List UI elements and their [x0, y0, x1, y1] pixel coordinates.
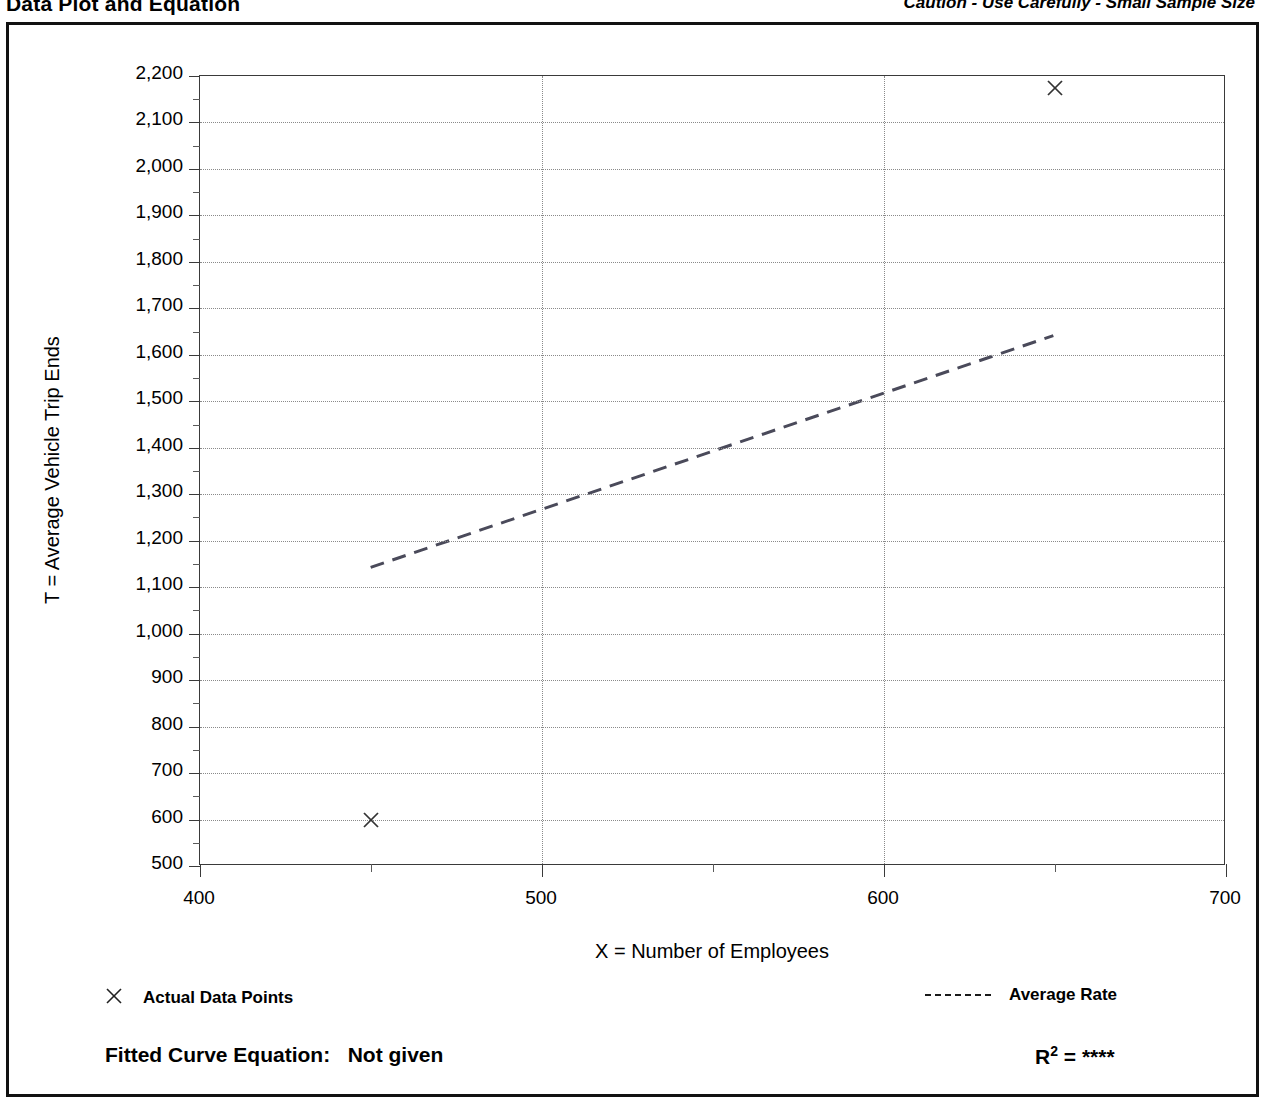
average-rate-trendline	[200, 76, 1224, 864]
y-axis-tick-major	[189, 820, 200, 821]
y-axis-tick-major	[189, 448, 200, 449]
x-axis-tick-label: 500	[496, 887, 586, 909]
gridline-horizontal	[200, 308, 1224, 309]
y-axis-tick-label: 2,200	[103, 62, 183, 84]
y-axis-tick-major	[189, 215, 200, 216]
y-axis-tick-minor	[193, 703, 200, 704]
legend-item-actual-data-points: Actual Data Points	[103, 985, 293, 1011]
y-axis-tick-label: 1,100	[103, 573, 183, 595]
x-axis-tick-major	[884, 864, 885, 877]
y-axis-tick-minor	[193, 239, 200, 240]
fitted-curve-equation-label: Fitted Curve Equation:	[105, 1043, 330, 1066]
y-axis-tick-label: 1,800	[103, 248, 183, 270]
x-axis-tick-major	[542, 864, 543, 877]
y-axis-tick-minor	[193, 192, 200, 193]
y-axis-tick-label: 1,000	[103, 620, 183, 642]
plot-wrapper: T = Average Vehicle Trip Ends X = Number…	[9, 25, 1256, 1094]
y-axis-tick-label: 1,600	[103, 341, 183, 363]
gridline-horizontal	[200, 680, 1224, 681]
x-axis-tick-label: 600	[838, 887, 928, 909]
y-axis-tick-label: 1,700	[103, 294, 183, 316]
legend-item-average-rate: Average Rate	[925, 985, 1117, 1005]
y-axis-tick-major	[189, 494, 200, 495]
plot-area	[199, 75, 1225, 865]
chart-legend: Actual Data Points Average Rate	[9, 985, 1256, 1025]
gridline-horizontal	[200, 494, 1224, 495]
y-axis-tick-minor	[193, 564, 200, 565]
y-axis-title: T = Average Vehicle Trip Ends	[37, 75, 67, 865]
y-axis-tick-major	[189, 76, 200, 77]
y-axis-tick-minor	[193, 750, 200, 751]
y-axis-tick-label: 1,500	[103, 387, 183, 409]
x-axis-tick-major	[200, 864, 201, 877]
y-axis-tick-minor	[193, 332, 200, 333]
gridline-horizontal	[200, 401, 1224, 402]
r-squared: R2 = ****	[1035, 1043, 1115, 1069]
page-title: Data Plot and Equation	[6, 0, 240, 16]
y-axis-tick-major	[189, 355, 200, 356]
gridline-horizontal	[200, 448, 1224, 449]
gridline-horizontal	[200, 820, 1224, 821]
y-axis-tick-minor	[193, 657, 200, 658]
x-axis-tick-minor	[1055, 864, 1056, 872]
y-axis-tick-label: 2,100	[103, 108, 183, 130]
gridline-horizontal	[200, 541, 1224, 542]
y-axis-tick-major	[189, 308, 200, 309]
r-squared-label: R	[1035, 1045, 1050, 1068]
y-axis-tick-label: 1,900	[103, 201, 183, 223]
x-axis-tick-minor	[713, 864, 714, 872]
y-axis-tick-major	[189, 169, 200, 170]
y-axis-tick-major	[189, 541, 200, 542]
y-axis-tick-label: 2,000	[103, 155, 183, 177]
y-axis-tick-label: 1,200	[103, 527, 183, 549]
fitted-curve-equation-value: Not given	[348, 1043, 444, 1066]
gridline-vertical	[884, 76, 885, 864]
gridline-horizontal	[200, 122, 1224, 123]
gridline-horizontal	[200, 587, 1224, 588]
legend-label-actual-data-points: Actual Data Points	[143, 988, 293, 1008]
chart-card: T = Average Vehicle Trip Ends X = Number…	[6, 22, 1259, 1097]
y-axis-tick-major	[189, 866, 200, 867]
y-axis-tick-label: 1,300	[103, 480, 183, 502]
y-axis-tick-minor	[193, 610, 200, 611]
gridline-horizontal	[200, 727, 1224, 728]
y-axis-tick-label: 1,400	[103, 434, 183, 456]
gridline-horizontal	[200, 169, 1224, 170]
x-axis-tick-major	[1226, 864, 1227, 877]
gridline-horizontal	[200, 355, 1224, 356]
y-axis-tick-minor	[193, 146, 200, 147]
r-squared-value: ****	[1082, 1045, 1115, 1068]
r-squared-equals: =	[1064, 1045, 1076, 1068]
x-axis-tick-minor	[371, 864, 372, 872]
y-axis-tick-label: 800	[103, 713, 183, 735]
data-point-marker	[361, 810, 381, 830]
r-squared-exponent: 2	[1050, 1043, 1058, 1059]
chart-footer: Fitted Curve Equation: Not given R2 = **…	[9, 1043, 1256, 1083]
y-axis-tick-major	[189, 587, 200, 588]
y-axis-tick-major	[189, 401, 200, 402]
x-axis-tick-label: 700	[1180, 887, 1269, 909]
gridline-horizontal	[200, 773, 1224, 774]
y-axis-tick-label: 500	[103, 852, 183, 874]
average-rate-line	[371, 336, 1054, 568]
y-axis-tick-label: 900	[103, 666, 183, 688]
x-axis-tick-label: 400	[154, 887, 244, 909]
y-axis-tick-minor	[193, 285, 200, 286]
gridline-vertical	[542, 76, 543, 864]
caution-note: Caution - Use Carefully - Small Sample S…	[904, 0, 1255, 13]
y-axis-tick-major	[189, 680, 200, 681]
y-axis-tick-minor	[193, 471, 200, 472]
y-axis-tick-label: 700	[103, 759, 183, 781]
y-axis-tick-minor	[193, 517, 200, 518]
gridline-horizontal	[200, 634, 1224, 635]
y-axis-tick-minor	[193, 99, 200, 100]
y-axis-tick-major	[189, 262, 200, 263]
x-marker-icon	[103, 985, 125, 1011]
y-axis-tick-label: 600	[103, 806, 183, 828]
y-axis-tick-major	[189, 773, 200, 774]
x-axis-title: X = Number of Employees	[199, 940, 1225, 963]
fitted-curve-equation: Fitted Curve Equation: Not given	[105, 1043, 443, 1067]
y-axis-tick-minor	[193, 843, 200, 844]
y-axis-tick-minor	[193, 796, 200, 797]
y-axis-tick-minor	[193, 425, 200, 426]
